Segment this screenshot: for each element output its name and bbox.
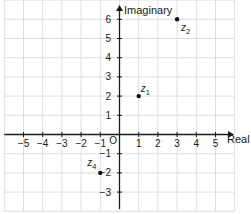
point-label-z2: z2: [181, 22, 190, 37]
complex-plane-chart: −5−4−3−2−112345−3−2−1123456 Imaginary Re…: [0, 0, 251, 214]
x-tick-label: −5: [18, 138, 30, 149]
y-tick-label: −1: [100, 148, 112, 159]
x-tick-label: −3: [56, 138, 68, 149]
chart-canvas: −5−4−3−2−112345−3−2−1123456: [0, 0, 251, 214]
imaginary-axis-label: Imaginary: [124, 4, 172, 16]
y-tick-label: 2: [105, 91, 111, 102]
real-axis-label: Real: [227, 133, 250, 145]
point-z4: [98, 171, 102, 175]
x-tick-label: 1: [136, 138, 142, 149]
y-tick-label: 4: [105, 52, 111, 63]
point-z2: [175, 17, 179, 21]
imaginary-axis-arrow-icon: [116, 5, 123, 11]
y-tick-label: 5: [105, 33, 111, 44]
x-tick-label: 5: [213, 138, 219, 149]
y-tick-label: 3: [105, 71, 111, 82]
point-label-z1: z1: [141, 83, 150, 98]
x-tick-label: 3: [174, 138, 180, 149]
x-tick-label: −4: [37, 138, 49, 149]
x-tick-label: 4: [194, 138, 200, 149]
x-tick-label: −2: [75, 138, 87, 149]
point-label-z4: z4: [87, 157, 96, 172]
origin-label: O: [103, 135, 117, 146]
y-tick-label: −3: [100, 187, 112, 198]
y-tick-label: 1: [105, 110, 111, 121]
y-tick-label: 6: [105, 14, 111, 25]
x-tick-label: 2: [155, 138, 161, 149]
